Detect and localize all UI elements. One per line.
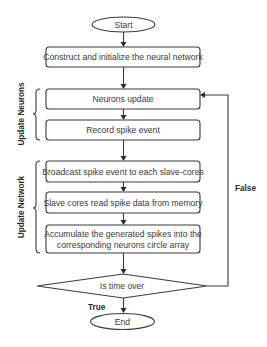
- false-label: False: [235, 184, 256, 193]
- broadcast-node: Broadcast spike event to each slave-core…: [42, 161, 203, 182]
- arrow-slave-read-to-accumulate: [121, 213, 127, 225]
- update-neurons-brace: [33, 89, 40, 140]
- construct-node: Construct and initialize the neural netw…: [43, 47, 203, 67]
- decision-label: Is time over: [100, 281, 145, 291]
- accumulate-label-line2: corresponding neurons circle array: [57, 240, 190, 250]
- neurons-update-label: Neurons update: [92, 94, 153, 104]
- arrow-construct-to-neurons-update: [121, 67, 127, 89]
- start-node: Start: [92, 17, 155, 32]
- end-label: End: [115, 317, 131, 327]
- arrow-decision-false-loop: [200, 92, 228, 286]
- slave-read-node: Slave cores read spike data from memory: [43, 192, 203, 213]
- accumulate-label-line1: Accumulate the generated spikes into the: [44, 229, 202, 239]
- construct-label: Construct and initialize the neural netw…: [43, 52, 203, 62]
- decision-node: Is time over: [37, 274, 207, 298]
- start-label: Start: [114, 20, 133, 30]
- record-spike-node: Record spike event: [46, 120, 200, 140]
- true-label: True: [88, 303, 106, 312]
- end-node: End: [91, 314, 155, 330]
- arrow-neurons-update-to-record: [121, 109, 127, 120]
- update-neurons-label: Update Neurons: [17, 82, 26, 146]
- update-network-label: Update Network: [17, 175, 26, 238]
- neurons-update-node: Neurons update: [46, 89, 200, 109]
- accumulate-node: Accumulate the generated spikes into the…: [44, 225, 202, 253]
- broadcast-label: Broadcast spike event to each slave-core…: [42, 167, 203, 177]
- arrow-start-to-construct: [121, 32, 127, 47]
- update-neurons-group: Update Neurons: [17, 82, 40, 146]
- slave-read-label: Slave cores read spike data from memory: [43, 198, 203, 208]
- update-network-group: Update Network: [17, 161, 40, 253]
- record-spike-label: Record spike event: [86, 125, 160, 135]
- update-network-brace: [33, 161, 40, 253]
- flowchart: Start Construct and initialize the neura…: [0, 0, 267, 347]
- arrow-record-to-broadcast: [121, 140, 127, 161]
- arrow-broadcast-to-slave-read: [121, 182, 127, 192]
- arrow-decision-true-to-end: [121, 298, 127, 313]
- arrow-accumulate-to-decision: [121, 253, 127, 274]
